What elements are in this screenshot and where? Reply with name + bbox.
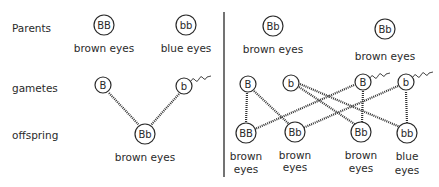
phenotype-line-1: brown <box>279 149 311 161</box>
right-offspring-4: bb blue eyes <box>395 123 420 176</box>
allele-label: b <box>288 78 294 89</box>
phenotype-line-1: brown <box>345 149 377 161</box>
phenotype-line-1: brown <box>230 150 262 162</box>
phenotype-line-1: blue <box>396 150 419 162</box>
phenotype-label: brown eyes <box>74 42 134 54</box>
allele-label: B <box>245 79 252 90</box>
row-label-parents: Parents <box>12 22 51 34</box>
inheritance-diagram: Parents gametes offspring BB brown eyes … <box>0 0 439 187</box>
right-gamete-egg-B: B <box>240 76 256 92</box>
right-offspring-1: BB brown eyes <box>230 123 262 175</box>
link-B1-to-BB <box>246 93 247 123</box>
allele-label: b <box>181 81 187 92</box>
phenotype-label: brown eyes <box>243 43 303 55</box>
right-offspring-2: Bb brown eyes <box>279 122 311 173</box>
link-B2-to-Bb2 <box>362 91 363 122</box>
genotype-label: Bb <box>354 127 367 138</box>
genotype-label: bb <box>180 20 193 31</box>
sperm-tail-icon <box>191 76 211 81</box>
link-b1-to-bb <box>300 84 400 127</box>
genotype-label: Bb <box>288 127 301 138</box>
link-b-to-Bb <box>151 94 179 125</box>
genotype-label: Bb <box>266 21 279 32</box>
left-cross-links <box>109 93 179 125</box>
phenotype-line-2: eyes <box>349 162 374 174</box>
link-B-to-Bb <box>109 93 139 125</box>
right-cross-links <box>246 84 407 129</box>
phenotype-line-2: eyes <box>234 163 259 175</box>
left-parent-2: bb blue eyes <box>161 15 212 54</box>
right-parent-1: Bb brown eyes <box>243 16 303 55</box>
sperm-tail-icon <box>413 72 433 77</box>
row-label-gametes: gametes <box>12 82 58 94</box>
allele-label: B <box>360 77 367 88</box>
right-gamete-sperm-b: b <box>398 72 433 90</box>
left-gamete-egg: B <box>95 77 111 93</box>
genotype-label: BB <box>97 20 111 31</box>
genotype-label: bb <box>401 128 414 139</box>
right-gamete-sperm-B: B <box>355 73 390 90</box>
link-B1-to-Bb1 <box>254 91 289 124</box>
phenotype-line-2: eyes <box>395 164 420 176</box>
link-b2-to-bb <box>406 92 407 123</box>
sperm-tail-icon <box>370 73 390 78</box>
phenotype-label: brown eyes <box>115 151 175 163</box>
left-gamete-sperm: b <box>176 76 211 94</box>
left-parent-1: BB brown eyes <box>74 15 134 54</box>
right-parent-2: Bb brown eyes <box>355 19 415 62</box>
allele-label: B <box>100 80 107 91</box>
genotype-label: Bb <box>138 129 151 140</box>
genotype-label: Bb <box>378 24 391 35</box>
phenotype-line-2: eyes <box>283 161 308 173</box>
right-gamete-egg-b: b <box>283 75 299 91</box>
left-offspring-1: Bb brown eyes <box>115 124 175 163</box>
phenotype-label: brown eyes <box>355 50 415 62</box>
right-offspring-3: Bb brown eyes <box>345 122 377 174</box>
genotype-label: BB <box>239 128 253 139</box>
row-label-offspring: offspring <box>12 129 58 141</box>
phenotype-label: blue eyes <box>161 42 212 54</box>
allele-label: b <box>403 77 409 88</box>
